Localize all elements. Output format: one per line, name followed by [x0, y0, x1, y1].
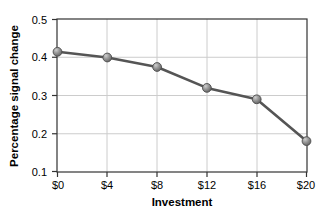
data-point-marker — [252, 95, 261, 104]
y-tick-label: 0.3 — [32, 90, 47, 102]
x-tick-labels: $0 $4 $8 $12 $16 $20 — [52, 179, 315, 191]
y-axis-label: Percentage signal change — [8, 25, 20, 167]
y-tick-labels: 0.5 0.4 0.3 0.2 0.1 — [32, 14, 47, 178]
y-axis-ticks — [52, 20, 57, 172]
y-tick-label: 0.1 — [32, 166, 47, 178]
y-tick-label: 0.4 — [32, 51, 47, 63]
data-point-marker — [203, 84, 212, 93]
data-point-marker — [153, 63, 162, 72]
x-tick-label: $4 — [101, 179, 113, 191]
line-chart: 0.5 0.4 0.3 0.2 0.1 $0 $4 $8 $12 $16 $20… — [0, 0, 328, 212]
x-axis-label: Investment — [152, 196, 213, 208]
y-tick-label: 0.5 — [32, 14, 47, 26]
chart-container: 0.5 0.4 0.3 0.2 0.1 $0 $4 $8 $12 $16 $20… — [0, 0, 328, 212]
x-tick-label: $20 — [297, 179, 315, 191]
x-axis-ticks — [58, 172, 307, 177]
data-point-marker — [53, 47, 62, 56]
x-tick-label: $12 — [198, 179, 216, 191]
y-tick-label: 0.2 — [32, 128, 47, 140]
data-point-marker — [302, 137, 311, 146]
x-tick-label: $0 — [52, 179, 64, 191]
x-tick-label: $16 — [248, 179, 266, 191]
data-point-marker — [103, 53, 112, 62]
x-tick-label: $8 — [151, 179, 163, 191]
